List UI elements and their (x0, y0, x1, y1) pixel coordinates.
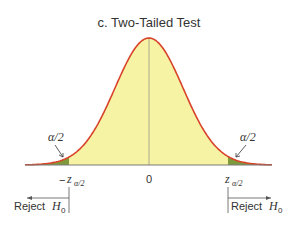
svg-text:0: 0 (61, 206, 66, 215)
svg-text:0: 0 (278, 206, 283, 215)
acceptance-region (69, 38, 228, 165)
tick-zero: 0 (146, 173, 152, 185)
svg-text:z: z (224, 172, 230, 186)
svg-text:Reject: Reject (14, 200, 45, 212)
svg-text:α/2: α/2 (74, 179, 84, 188)
right-tail-arrow (236, 145, 246, 157)
left-tail-label: α/2 (48, 130, 64, 144)
right-tail-label: α/2 (240, 130, 256, 144)
two-tailed-test-figure: c. Two-Tailed Test α/2 α/2 − z α/2 0 z α… (0, 0, 293, 226)
figure-title: c. Two-Tailed Test (98, 15, 201, 30)
tick-pos-z: z α/2 (224, 172, 242, 188)
left-reject-label: Reject H 0 (14, 199, 66, 215)
right-reject-label: Reject H 0 (231, 199, 283, 215)
tick-neg-z: − z α/2 (59, 172, 84, 188)
svg-text:Reject: Reject (231, 200, 262, 212)
svg-text:z: z (66, 172, 72, 186)
svg-text:−: − (59, 174, 65, 186)
svg-text:α/2: α/2 (232, 179, 242, 188)
